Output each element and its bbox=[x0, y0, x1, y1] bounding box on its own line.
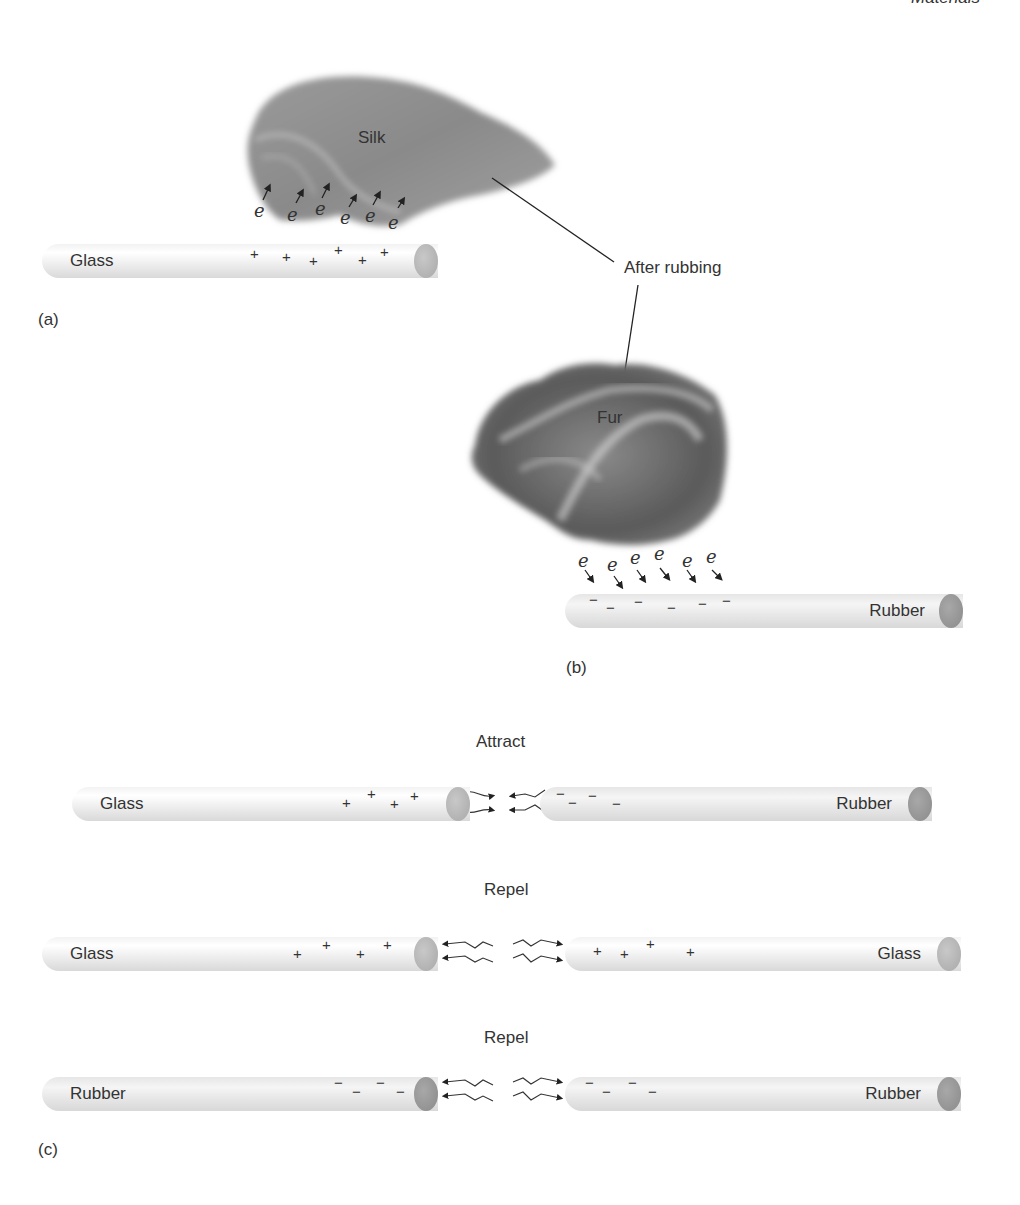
attract-arrows bbox=[468, 790, 545, 812]
charge: − bbox=[588, 788, 597, 803]
rubber-rod: Rubber bbox=[565, 594, 963, 628]
charge: − bbox=[352, 1084, 361, 1099]
charge: + bbox=[322, 937, 331, 952]
charge: − bbox=[602, 1084, 611, 1099]
rod-end bbox=[937, 1077, 961, 1111]
electron-label: e bbox=[630, 547, 641, 568]
charge: − bbox=[376, 1075, 385, 1090]
panel-label-b: (b) bbox=[566, 658, 587, 678]
rod-end bbox=[937, 937, 961, 971]
electron-label: e bbox=[365, 205, 376, 226]
rod-end bbox=[446, 787, 470, 821]
electron-label: e bbox=[578, 550, 589, 571]
charge: + bbox=[383, 937, 392, 952]
charge: + bbox=[342, 795, 351, 810]
rod-end bbox=[939, 594, 963, 628]
charge: − bbox=[556, 786, 565, 801]
interaction-title: Attract bbox=[476, 732, 525, 752]
charge: + bbox=[390, 796, 399, 811]
charge: + bbox=[593, 943, 602, 958]
electron-label: e bbox=[654, 543, 665, 564]
charge: + bbox=[646, 936, 655, 951]
electron-label: e bbox=[388, 212, 399, 233]
electron-label: e bbox=[682, 550, 693, 571]
charge: − bbox=[585, 1075, 594, 1090]
glass-rod: Glass bbox=[42, 244, 438, 278]
charge: + bbox=[356, 946, 365, 961]
repel-arrows-row3 bbox=[445, 1078, 560, 1101]
rod-label: Rubber bbox=[836, 794, 892, 814]
charge: − bbox=[334, 1075, 343, 1090]
rod-label: Glass bbox=[70, 944, 113, 964]
charge: + bbox=[293, 946, 302, 961]
charge: + bbox=[686, 944, 695, 959]
rod-end bbox=[414, 1077, 438, 1111]
callout-line-silk bbox=[492, 178, 614, 262]
charge: + bbox=[620, 946, 629, 961]
rubber-rod: Rubber bbox=[540, 787, 932, 821]
charge: + bbox=[309, 253, 318, 268]
rod-label: Glass bbox=[70, 251, 113, 271]
charge: − bbox=[722, 593, 731, 608]
electron-label: e bbox=[706, 546, 717, 567]
electron-label: e bbox=[607, 554, 618, 575]
rubber-rod: Rubber bbox=[565, 1077, 961, 1111]
after-rubbing-callout: After rubbing bbox=[624, 258, 721, 278]
electron-label: e bbox=[287, 204, 298, 225]
charge: − bbox=[698, 596, 707, 611]
charge: − bbox=[667, 600, 676, 615]
electron-label: e bbox=[315, 198, 326, 219]
charge: − bbox=[589, 592, 598, 607]
rod-end bbox=[414, 244, 438, 278]
electron-arrows-down bbox=[585, 568, 720, 586]
fur-label: Fur bbox=[597, 408, 623, 428]
silk-label: Silk bbox=[358, 128, 385, 148]
charge: + bbox=[250, 246, 259, 261]
charge: − bbox=[606, 600, 615, 615]
rod-label: Glass bbox=[100, 794, 143, 814]
charge: − bbox=[628, 1075, 637, 1090]
rod-end bbox=[908, 787, 932, 821]
charge: + bbox=[358, 252, 367, 267]
charge: + bbox=[367, 786, 376, 801]
rod-label: Rubber bbox=[70, 1084, 126, 1104]
charge: − bbox=[634, 594, 643, 609]
repel-arrows-row2 bbox=[445, 940, 560, 962]
electron-label: e bbox=[340, 207, 351, 228]
charge: + bbox=[380, 244, 389, 259]
charge: − bbox=[568, 795, 577, 810]
glass-rod: Glass bbox=[42, 937, 438, 971]
rod-end bbox=[414, 937, 438, 971]
charge: − bbox=[396, 1084, 405, 1099]
charge: + bbox=[410, 788, 419, 803]
rod-label: Rubber bbox=[869, 601, 925, 621]
charge: − bbox=[612, 796, 621, 811]
charge: + bbox=[282, 249, 291, 264]
charge: − bbox=[648, 1084, 657, 1099]
rod-label: Rubber bbox=[865, 1084, 921, 1104]
panel-label-a: (a) bbox=[38, 310, 59, 330]
electron-label: e bbox=[254, 200, 265, 221]
interaction-title: Repel bbox=[484, 1028, 528, 1048]
interaction-title: Repel bbox=[484, 880, 528, 900]
charge: + bbox=[334, 242, 343, 257]
panel-label-c: (c) bbox=[38, 1140, 58, 1160]
rod-label: Glass bbox=[878, 944, 921, 964]
